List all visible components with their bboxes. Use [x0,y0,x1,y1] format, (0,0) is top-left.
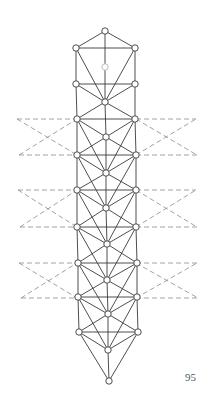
diagram-node-C3 [103,134,109,140]
diagram-node-L4 [74,152,80,158]
diagram-node-C4 [103,170,109,176]
diagram-nodes [73,28,141,384]
diagram-edge [76,48,105,102]
diagram-node-L8 [75,294,81,300]
diagram-node-C2 [102,99,108,105]
diagram-node-L3 [74,116,80,122]
diagram-edge [78,263,108,314]
diagram-edge [108,350,109,381]
diagram-edge [76,84,77,119]
diagram-edge [76,31,105,48]
diagram-node-L2 [73,81,79,87]
diagram-node-R8 [134,294,140,300]
diagram-node-C9 [105,347,111,353]
diagram-node-R9 [135,329,141,335]
diagram-node-L9 [76,329,82,335]
diagram-edge [78,297,108,350]
diagram-edge [135,119,136,155]
diagram-edge [106,137,136,155]
diagram-edge [77,155,106,208]
diagram-edge [79,332,109,381]
diagram-edge [105,48,135,102]
diagram-edge [77,227,78,263]
diagram-edge [77,227,107,280]
diagram-node-C1 [102,64,108,70]
diagram-node-L5 [74,187,80,193]
diagram-node-R6 [133,224,139,230]
diagram-edge [79,314,108,332]
diagram-node-R4 [133,152,139,158]
diagram-node-R7 [134,260,140,266]
diagram-edge [105,31,135,48]
diagram-node-R3 [132,116,138,122]
diagram-node-L7 [75,260,81,266]
diagram-node-top [102,28,108,34]
diagram-node-L1 [73,45,79,51]
diagram-node-R2 [132,81,138,87]
diagram-edge [106,208,107,244]
diagram-edge [108,297,137,350]
diagram-edge [105,102,135,119]
diagram-node-C5 [103,205,109,211]
diagram-edge [77,208,106,227]
page-number: 95 [185,371,196,383]
diagram-edge [78,297,79,332]
diagram-edge [77,137,106,155]
diagram-edge [77,190,106,208]
diagram-edge [136,227,137,263]
diagram-edge [137,297,138,332]
diagram-node-C6 [104,241,110,247]
diagram-node-L6 [74,224,80,230]
diagram-edge [106,155,136,208]
diagram-node-bottom [106,378,112,384]
diagram-edge [77,102,105,119]
diagram-node-R5 [133,187,139,193]
tree-of-life-diagram [0,0,211,417]
dashed-line [19,263,77,298]
diagram-edge [105,102,106,137]
diagram-node-R1 [132,45,138,51]
diagram-node-C7 [104,277,110,283]
diagram-edge [79,332,108,350]
diagram-node-C8 [105,311,111,317]
